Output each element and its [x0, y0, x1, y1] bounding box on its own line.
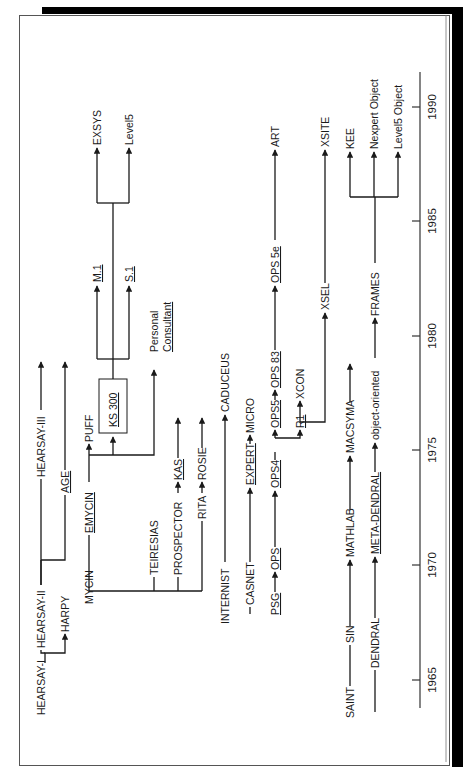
node-emycin: EMYCIN — [83, 492, 95, 533]
node-age: AGE — [59, 471, 71, 493]
node-rosie: ROSIE — [196, 447, 208, 480]
node-hearsay-iii: HEARSAY-III — [35, 416, 47, 477]
node-hearsay-ii: HEARSAY-II — [35, 590, 47, 648]
node-puff: PUFF — [83, 415, 95, 442]
tick-1980: 1980 — [426, 323, 438, 349]
node-consultant: Consultant — [161, 302, 173, 352]
tick-1975: 1975 — [426, 437, 438, 463]
node-rita: RITA — [196, 496, 208, 519]
node-ops5: OPS5 — [269, 400, 281, 428]
node-harpy: HARPY — [59, 596, 71, 632]
node-art: ART — [269, 126, 281, 147]
node-macsyma: MACSYMA — [344, 400, 356, 453]
node-level5-object: Level5 Object — [392, 85, 404, 149]
node-ops83: OPS 83 — [269, 351, 281, 388]
node-micro: MICRO — [244, 398, 256, 433]
node-ops4: OPS4 — [269, 460, 281, 488]
node-dendral: DENDRAL — [369, 618, 381, 668]
node-casnet: CASNET — [244, 562, 256, 605]
node-prospector: PROSPECTOR — [172, 501, 184, 575]
node-personal: Personal — [148, 311, 160, 352]
node-xcon: XCON — [294, 369, 306, 399]
node-ops: OPS — [269, 548, 281, 570]
tick-1985: 1985 — [426, 208, 438, 234]
node-expert: EXPERT — [244, 443, 256, 485]
node-ops5e: OPS 5e — [269, 246, 281, 283]
node-sin: SIN — [344, 625, 356, 643]
node-frames: FRAMES — [369, 272, 381, 316]
node-teiresias: TEIRESIAS — [148, 520, 160, 575]
node-saint: SAINT — [344, 686, 356, 718]
node-nexpert-object: Nexpert Object — [368, 79, 380, 149]
node-caduceus: CADUCEUS — [219, 353, 231, 412]
tick-1970: 1970 — [426, 552, 438, 578]
node-meta-dendral: META-DENDRAL — [369, 472, 381, 554]
frame-shadow-top — [42, 7, 463, 14]
tick-1990: 1990 — [426, 94, 438, 120]
node-object-oriented: object-oriented — [369, 370, 381, 440]
frame-border — [20, 16, 450, 766]
frame-shadow-right — [452, 7, 463, 767]
node-s1: S.1 — [123, 266, 135, 282]
node-level5: Level5 — [123, 114, 135, 145]
node-hearsay-i: HEARSAY-I — [35, 660, 47, 715]
node-exsys: EXSYS — [91, 110, 103, 145]
node-m1: M.1 — [91, 264, 103, 282]
node-kas: KAS — [172, 459, 184, 480]
node-xsite: XSITE — [319, 117, 331, 147]
node-mathlab: MATHLAB — [344, 508, 356, 557]
node-psg: PSG — [269, 593, 281, 615]
node-xsel: XSEL — [319, 283, 331, 310]
node-kee: KEE — [344, 128, 356, 149]
node-ks300: KS 300 — [107, 392, 119, 427]
tick-1965: 1965 — [426, 667, 438, 693]
expert-systems-genealogy-diagram: 1965 1970 1975 1980 1985 1990 HEARSAY-I … — [0, 0, 463, 776]
node-internist: INTERNIST — [219, 568, 231, 624]
